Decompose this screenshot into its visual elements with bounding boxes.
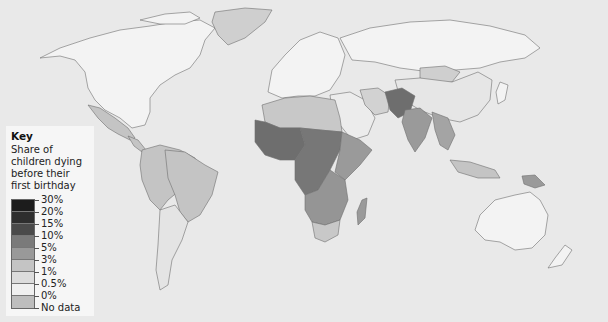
key-label: 15% bbox=[37, 218, 80, 230]
key-title: Key bbox=[11, 130, 89, 142]
key-label: 0% bbox=[37, 290, 80, 302]
map-key: Key Share of children dying before their… bbox=[6, 126, 94, 316]
swatch-5-3 bbox=[12, 248, 34, 260]
key-label: 10% bbox=[37, 230, 80, 242]
swatch-3-1 bbox=[12, 260, 34, 272]
swatch-no-data bbox=[12, 296, 34, 308]
key-labels: 30% 20% 15% 10% 5% 3% 1% 0.5% 0% No data bbox=[37, 194, 80, 314]
key-label: 3% bbox=[37, 254, 80, 266]
key-scale: 30% 20% 15% 10% 5% 3% 1% 0.5% 0% No data bbox=[11, 199, 89, 317]
key-label: 20% bbox=[37, 206, 80, 218]
key-swatch-column bbox=[11, 199, 35, 309]
key-description: Share of children dying before their fir… bbox=[11, 144, 89, 192]
key-label: No data bbox=[37, 302, 80, 314]
key-label: 5% bbox=[37, 242, 80, 254]
swatch-30-20 bbox=[12, 200, 34, 212]
key-label: 0.5% bbox=[37, 278, 80, 290]
key-label: 1% bbox=[37, 266, 80, 278]
swatch-20-15 bbox=[12, 212, 34, 224]
swatch-0.5-0 bbox=[12, 284, 34, 296]
key-label: 30% bbox=[37, 194, 80, 206]
swatch-1-0.5 bbox=[12, 272, 34, 284]
swatch-15-10 bbox=[12, 224, 34, 236]
swatch-10-5 bbox=[12, 236, 34, 248]
